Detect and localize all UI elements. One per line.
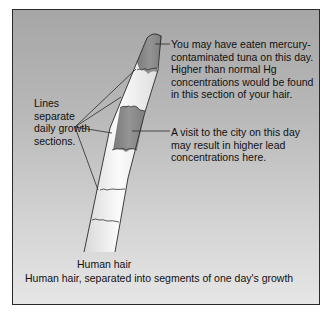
hair-label: Human hair (77, 258, 131, 271)
lead-annotation: A visit to the city on this day may resu… (171, 126, 321, 164)
diagram-caption: Human hair, separated into segments of o… (25, 272, 293, 285)
lines-annotation: Lines separate daily growth sections. (34, 97, 94, 147)
mercury-annotation: You may have eaten mercury-contaminated … (171, 38, 321, 101)
